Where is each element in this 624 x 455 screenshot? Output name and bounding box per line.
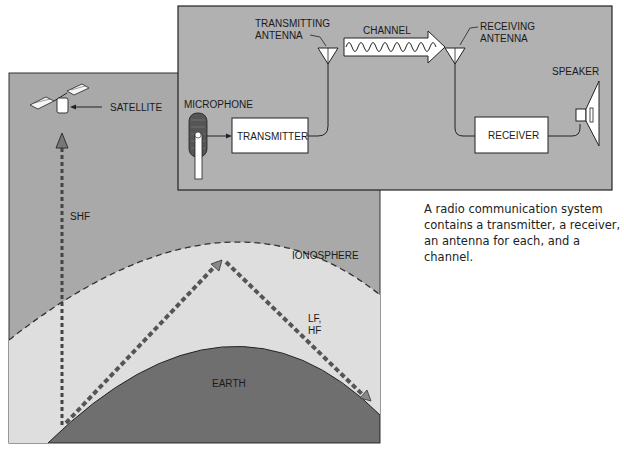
transmitting-antenna-label-1: TRANSMITTING — [255, 18, 330, 29]
microphone-label: MICROPHONE — [184, 99, 253, 110]
satellite-label: SATELLITE — [110, 102, 162, 113]
transmitting-antenna-label-2: ANTENNA — [255, 30, 303, 41]
ionosphere-label: IONOSPHERE — [292, 250, 359, 261]
caption: A radio communication system contains a … — [424, 201, 624, 265]
earth-label: EARTH — [212, 378, 246, 389]
lf-hf-label-1: LF, — [308, 313, 321, 324]
receiver-label: RECEIVER — [488, 130, 539, 141]
system-panel: MICROPHONE TRANSMITTER TRANSMITTING ANTE… — [178, 6, 612, 190]
speaker-label: SPEAKER — [552, 66, 599, 77]
channel-label: CHANNEL — [363, 25, 411, 36]
lf-hf-label-2: HF — [308, 325, 321, 336]
shf-label: SHF — [70, 211, 90, 222]
receiving-antenna-label-2: ANTENNA — [480, 33, 528, 44]
transmitter-label: TRANSMITTER — [237, 131, 308, 142]
receiving-antenna-label-1: RECEIVING — [480, 21, 535, 32]
